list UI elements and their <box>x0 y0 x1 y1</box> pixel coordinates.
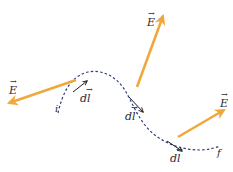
line-integral-diagram: E dl i E dl E dl f <box>0 0 233 172</box>
displacement-vector-2-label: dl <box>125 111 136 122</box>
field-vector-3-label: E <box>220 98 228 109</box>
displacement-vector-1 <box>73 81 87 92</box>
path-start-label: i <box>55 104 58 114</box>
field-vector-1 <box>9 80 76 103</box>
e-vector-symbol: E <box>9 85 17 96</box>
field-vector-1-label: E <box>9 85 17 96</box>
e-vector-symbol: E <box>220 98 228 109</box>
start-point-i: i <box>55 103 58 114</box>
field-vector-2-label: E <box>147 17 155 28</box>
dl-vector-symbol: dl <box>80 93 91 104</box>
field-vector-3 <box>178 110 224 137</box>
end-point-f: f <box>217 147 221 158</box>
e-vector-symbol: E <box>147 17 155 28</box>
path-end-label: f <box>217 148 221 158</box>
dl-vector-symbol: dl <box>125 111 136 122</box>
diagram-canvas <box>0 0 233 172</box>
dl-vector-symbol: dl <box>170 153 181 164</box>
displacement-vector-1-label: dl <box>80 93 91 104</box>
displacement-vector-3-label: dl <box>170 153 181 164</box>
